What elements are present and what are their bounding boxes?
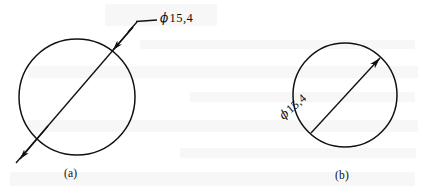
diameter-symbol-a: ϕ bbox=[160, 11, 170, 25]
part-b-group bbox=[293, 43, 397, 147]
leader-landing-a bbox=[136, 20, 157, 22]
figure-container: ϕ15,4 ϕ15,4 (a) (b) bbox=[0, 0, 422, 196]
dimension-arrow-lower-a bbox=[20, 126, 48, 159]
part-a-group bbox=[16, 20, 157, 163]
caption-a: (a) bbox=[64, 167, 77, 179]
circle-outline-a bbox=[19, 39, 135, 155]
dimension-line-b bbox=[311, 58, 380, 133]
leader-shoulder-a bbox=[128, 22, 137, 32]
circle-outline-b bbox=[293, 43, 397, 147]
caption-b: (b) bbox=[335, 169, 349, 181]
dimension-value-a: 15,4 bbox=[170, 11, 193, 25]
dimension-label-a: ϕ15,4 bbox=[160, 11, 193, 26]
